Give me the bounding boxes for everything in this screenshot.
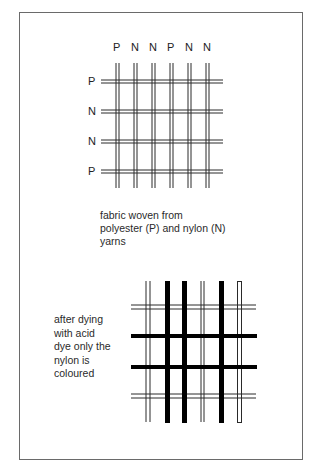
caption-line: with acid: [54, 327, 111, 341]
caption-line: fabric woven from: [100, 209, 225, 222]
top-caption: fabric woven from polyester (P) and nylo…: [100, 209, 225, 248]
column-label: N: [185, 42, 193, 53]
caption-line: after dying: [54, 313, 111, 327]
caption-line: yarns: [100, 235, 225, 248]
caption-line: coloured: [54, 367, 111, 381]
row-label: N: [88, 106, 96, 117]
row-label: P: [88, 166, 95, 177]
column-label: N: [203, 42, 211, 53]
row-label: N: [88, 136, 96, 147]
caption-line: polyester (P) and nylon (N): [100, 222, 225, 235]
bottom-caption: after dying with acid dye only the nylon…: [54, 313, 111, 381]
caption-line: nylon is: [54, 354, 111, 368]
column-label: N: [149, 42, 157, 53]
dyed-fabric-grid: [131, 281, 257, 423]
caption-line: dye only the: [54, 340, 111, 354]
column-label: P: [167, 42, 174, 53]
warp-yarns: [116, 63, 209, 188]
column-label: N: [131, 42, 139, 53]
column-label: P: [113, 42, 120, 53]
row-label: P: [88, 76, 95, 87]
